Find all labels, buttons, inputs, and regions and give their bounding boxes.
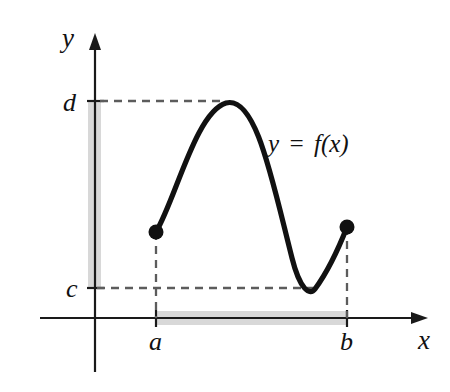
curve-equation-label: y = f(x) — [265, 130, 349, 158]
x-axis-arrowhead — [411, 312, 428, 324]
y-axis-arrowhead — [89, 33, 101, 50]
equation-rhs: f(x) — [314, 130, 349, 158]
tick-label-a: a — [149, 327, 162, 356]
tick-label-b: b — [340, 327, 353, 356]
tick-label-c: c — [66, 274, 78, 303]
y-axis-label: y — [59, 23, 74, 53]
equation-operator: = — [288, 130, 305, 157]
left-endpoint-dot — [149, 225, 164, 240]
right-endpoint-dot — [340, 220, 355, 235]
graph-canvas: y x d c a b y = f(x) — [0, 0, 450, 392]
function-graph-figure: y x d c a b y = f(x) — [0, 0, 450, 392]
equation-lhs: y — [265, 130, 280, 157]
x-axis-label: x — [417, 325, 430, 355]
tick-label-d: d — [63, 88, 77, 117]
